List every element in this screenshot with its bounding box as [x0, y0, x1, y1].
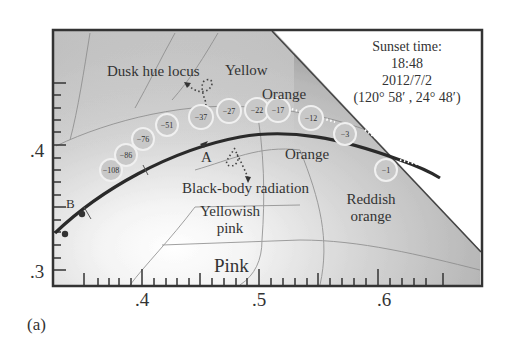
locus-point: −1 [375, 159, 397, 181]
region-label-yellow: Yellow [225, 62, 268, 78]
blackbody-label: Black-body radiation [182, 180, 310, 196]
svg-text:−3: −3 [341, 130, 350, 139]
region-label-orange-sub: orange [351, 208, 392, 224]
region-label-orange-top: Orange [262, 86, 306, 102]
svg-text:−76: −76 [137, 135, 150, 144]
svg-text:−17: −17 [272, 106, 285, 115]
region-label-orange-mid: Orange [285, 146, 329, 162]
region-label-pink: Pink [214, 255, 249, 276]
svg-text:−37: −37 [195, 113, 208, 122]
svg-text:−22: −22 [251, 106, 264, 115]
panel-label: (a) [27, 315, 46, 334]
x-tick-label: .5 [252, 289, 266, 310]
sunset-title: Sunset time: [372, 39, 442, 54]
svg-text:−108: −108 [103, 166, 120, 175]
dusk-hue-locus-label: Dusk hue locus [107, 63, 200, 79]
locus-point: −86 [115, 144, 137, 166]
locus-point: −12 [299, 106, 323, 130]
x-tick-label: .4 [135, 289, 150, 310]
locus-point: −3 [334, 123, 356, 145]
locus-point: −27 [217, 99, 241, 123]
sunset-coordinates: (120° 58′ , 24° 48′) [353, 90, 460, 106]
svg-text:−86: −86 [120, 151, 133, 160]
svg-text:−1: −1 [382, 166, 391, 175]
locus-point: −76 [132, 128, 154, 150]
point-b-upper [79, 211, 85, 217]
y-tick-label: .3 [30, 261, 44, 282]
point-a-label: A [201, 149, 212, 165]
sunset-time: 18:48 [391, 56, 423, 71]
region-label-reddish: Reddish [346, 191, 396, 207]
region-label-yellowish: Yellowish [200, 203, 261, 219]
x-tick-label: .6 [377, 289, 391, 310]
point-b-lower [62, 231, 68, 237]
chromaticity-diagram: .4 .3 .4 .5 .6 (a) B A −108 −86 −76 [0, 0, 505, 359]
point-b-label: B [66, 196, 75, 211]
svg-text:−27: −27 [223, 107, 236, 116]
sunset-date: 2012/7/2 [382, 73, 432, 88]
svg-text:−12: −12 [305, 114, 318, 123]
sunset-info: Sunset time: 18:48 2012/7/2 (120° 58′ , … [353, 39, 460, 106]
locus-point: −51 [156, 114, 178, 136]
svg-text:−51: −51 [161, 121, 174, 130]
region-label-pink-sub: pink [217, 220, 244, 236]
y-tick-label: .4 [30, 140, 45, 161]
locus-point: −37 [189, 105, 213, 129]
